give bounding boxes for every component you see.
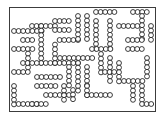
bead <box>85 32 90 37</box>
bead <box>108 23 113 28</box>
bead <box>57 19 62 24</box>
bead <box>76 32 81 37</box>
bead <box>121 24 126 29</box>
bead-chain <box>67 65 72 88</box>
bead <box>145 60 150 65</box>
bead <box>62 93 67 98</box>
bead-chain <box>131 84 136 103</box>
bead <box>26 51 31 56</box>
bead <box>85 23 90 28</box>
bead <box>12 84 17 89</box>
bead <box>16 102 21 107</box>
bead <box>131 93 136 98</box>
bead <box>76 18 81 23</box>
bead <box>90 56 95 61</box>
bead-chain <box>140 102 154 107</box>
bead <box>85 65 90 70</box>
bead-chain <box>140 84 145 103</box>
bead <box>12 47 17 52</box>
bead <box>107 10 112 15</box>
bead <box>85 88 90 93</box>
bead-chain <box>12 70 31 75</box>
bead <box>62 88 67 93</box>
bead-chain <box>53 19 72 24</box>
bead <box>53 28 58 33</box>
bead <box>67 74 72 79</box>
bead <box>94 19 99 24</box>
bead <box>94 37 99 42</box>
bead <box>98 93 103 98</box>
bead-chain <box>12 84 17 107</box>
bead <box>140 23 145 28</box>
bead <box>39 75 44 80</box>
bead <box>122 79 127 84</box>
bead-chain <box>103 70 117 75</box>
bead-chain <box>30 102 49 107</box>
bead <box>71 97 76 102</box>
bead <box>57 38 62 43</box>
bead-chain <box>53 28 72 33</box>
bead <box>117 24 122 29</box>
bead <box>76 88 81 93</box>
bead <box>117 61 122 66</box>
bead <box>131 88 136 93</box>
bead-chain <box>90 47 113 52</box>
bead <box>21 29 26 34</box>
bead <box>44 84 49 89</box>
bead <box>39 47 44 52</box>
bead <box>71 88 76 93</box>
bead-chain <box>44 93 72 98</box>
bead <box>76 84 81 89</box>
bead <box>76 37 81 42</box>
bead <box>48 75 53 80</box>
bead <box>53 75 58 80</box>
bead-chain <box>117 61 122 84</box>
bead <box>57 61 62 66</box>
bead <box>53 56 58 61</box>
bead <box>16 47 21 52</box>
bead <box>94 32 99 37</box>
bead <box>149 24 154 29</box>
bead <box>53 84 58 89</box>
bead <box>67 83 72 88</box>
bead <box>130 38 135 43</box>
bead <box>117 79 122 84</box>
bead-chain <box>85 84 90 98</box>
bead <box>21 47 26 52</box>
bead-chain <box>145 56 150 79</box>
bead <box>130 24 135 29</box>
bead <box>76 56 81 61</box>
bead <box>140 79 145 84</box>
bead <box>62 84 67 89</box>
bead <box>62 97 67 102</box>
bead <box>53 19 58 24</box>
bead <box>94 47 99 52</box>
bead-chain <box>35 75 63 80</box>
bead <box>25 47 30 52</box>
bead <box>12 88 17 93</box>
bead <box>39 28 44 33</box>
bead-chain <box>94 19 99 52</box>
bead <box>108 47 113 52</box>
bead <box>94 93 99 98</box>
bead <box>58 56 63 61</box>
bead <box>39 84 44 89</box>
bead <box>99 52 104 57</box>
bead <box>85 18 90 23</box>
bead <box>135 10 140 15</box>
bead <box>144 102 149 107</box>
bead <box>25 70 30 75</box>
bead <box>48 24 53 29</box>
bead-chain <box>126 47 145 52</box>
bead <box>117 74 122 79</box>
bead <box>12 97 17 102</box>
bead <box>12 70 17 75</box>
bead <box>112 10 117 15</box>
bead-chain <box>76 14 81 42</box>
bead <box>34 102 39 107</box>
bead <box>126 38 131 43</box>
bead <box>30 38 35 43</box>
bead <box>131 10 136 15</box>
bead <box>62 56 67 61</box>
bead <box>135 24 140 29</box>
